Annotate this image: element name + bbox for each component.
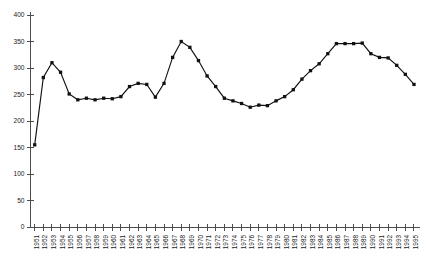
data-point-marker	[361, 41, 364, 44]
x-tick-label: 1983	[309, 235, 316, 250]
x-tick-label: 1959	[102, 235, 109, 250]
x-tick-label: 1971	[205, 235, 212, 250]
y-tick-label: 0	[21, 223, 25, 230]
data-point-marker	[386, 56, 389, 59]
x-tick-label: 1982	[300, 235, 307, 250]
x-tick-label: 1985	[326, 235, 333, 250]
data-point-marker	[85, 97, 88, 100]
y-tick-label: 350	[13, 38, 24, 45]
x-tick-label: 1977	[257, 235, 264, 250]
data-point-marker	[300, 77, 303, 80]
data-point-marker	[223, 97, 226, 100]
x-tick-label: 1989	[360, 235, 367, 250]
x-tick-label: 1974	[231, 235, 238, 250]
x-tick-label: 1967	[171, 235, 178, 250]
data-point-marker	[283, 95, 286, 98]
data-point-marker	[68, 92, 71, 95]
data-point-marker	[102, 97, 105, 100]
data-point-marker	[369, 52, 372, 55]
x-tick-label: 1956	[76, 235, 83, 250]
data-point-marker	[240, 102, 243, 105]
x-tick-label: 1954	[59, 235, 66, 250]
y-tick-label: 150	[13, 144, 24, 151]
x-tick-label: 1975	[240, 235, 247, 250]
y-tick-label: 300	[13, 64, 24, 71]
x-tick-label: 1972	[214, 235, 221, 250]
data-point-marker	[59, 71, 62, 74]
data-point-marker	[136, 82, 139, 85]
x-tick-label: 1958	[93, 235, 100, 250]
x-tick-label: 1973	[222, 235, 229, 250]
data-point-marker	[93, 98, 96, 101]
x-tick-label: 1957	[85, 235, 92, 250]
x-tick-label: 1955	[67, 235, 74, 250]
x-tick-label: 1964	[145, 235, 152, 250]
y-tick-label: 100	[13, 170, 24, 177]
y-tick-label: 250	[13, 91, 24, 98]
data-point-marker	[111, 97, 114, 100]
y-axis: 050100150200250300350400	[13, 11, 34, 230]
data-series	[33, 40, 416, 147]
y-tick-label: 400	[13, 11, 24, 18]
x-tick-label: 1991	[378, 235, 385, 250]
data-point-marker	[326, 52, 329, 55]
x-tick-label: 1952	[41, 235, 48, 250]
data-point-marker	[309, 69, 312, 72]
x-tick-label: 1969	[188, 235, 195, 250]
series-line	[35, 42, 414, 145]
x-tick-label: 1986	[334, 235, 341, 250]
data-point-marker	[352, 42, 355, 45]
x-tick-label: 1988	[352, 235, 359, 250]
data-point-marker	[257, 103, 260, 106]
data-point-marker	[33, 143, 36, 146]
data-point-marker	[266, 104, 269, 107]
data-point-marker	[274, 99, 277, 102]
data-point-marker	[42, 76, 45, 79]
data-point-marker	[292, 88, 295, 91]
data-point-marker	[404, 73, 407, 76]
x-tick-label: 1992	[386, 235, 393, 250]
y-tick-label: 200	[13, 117, 24, 124]
data-point-marker	[343, 42, 346, 45]
data-point-marker	[412, 83, 415, 86]
x-tick-label: 1995	[412, 235, 419, 250]
y-tick-label: 50	[17, 197, 25, 204]
data-point-marker	[128, 85, 131, 88]
x-tick-label: 1984	[317, 235, 324, 250]
data-point-marker	[335, 42, 338, 45]
data-point-marker	[318, 62, 321, 65]
line-chart: 050100150200250300350400 195119521953195…	[0, 0, 433, 269]
x-tick-label: 1966	[162, 235, 169, 250]
data-point-marker	[76, 98, 79, 101]
x-tick-label: 1960	[110, 235, 117, 250]
x-tick-label: 1961	[119, 235, 126, 250]
x-tick-label: 1951	[33, 235, 40, 250]
x-axis: 1951195219531954195519561957195819591960…	[31, 224, 420, 250]
data-point-marker	[378, 56, 381, 59]
chart-container: 050100150200250300350400 195119521953195…	[0, 0, 433, 269]
data-point-marker	[119, 95, 122, 98]
data-point-marker	[205, 74, 208, 77]
data-point-marker	[231, 99, 234, 102]
x-tick-label: 1981	[291, 235, 298, 250]
data-point-marker	[249, 106, 252, 109]
x-tick-label: 1990	[369, 235, 376, 250]
x-tick-label: 1962	[128, 235, 135, 250]
data-point-marker	[162, 82, 165, 85]
data-point-marker	[197, 59, 200, 62]
x-tick-label: 1965	[153, 235, 160, 250]
data-point-marker	[154, 96, 157, 99]
x-tick-label: 1968	[179, 235, 186, 250]
data-point-marker	[50, 61, 53, 64]
x-tick-label: 1963	[136, 235, 143, 250]
data-point-marker	[145, 83, 148, 86]
x-tick-label: 1976	[248, 235, 255, 250]
x-tick-label: 1979	[274, 235, 281, 250]
x-tick-label: 1987	[343, 235, 350, 250]
data-point-marker	[395, 64, 398, 67]
x-tick-label: 1993	[395, 235, 402, 250]
x-tick-label: 1953	[50, 235, 57, 250]
x-tick-label: 1978	[266, 235, 273, 250]
data-point-marker	[171, 56, 174, 59]
x-tick-label: 1970	[197, 235, 204, 250]
